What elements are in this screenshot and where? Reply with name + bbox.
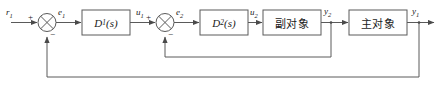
sum1-minus-sign: −	[50, 30, 55, 39]
primary-plant-box	[349, 10, 407, 35]
secondary-controller-box	[200, 10, 248, 35]
signal-label-u1: u1	[136, 8, 144, 19]
signal-label-e1: e1	[58, 8, 65, 19]
junction-dot-y2	[330, 21, 333, 24]
signal-label-e2: e2	[176, 8, 183, 19]
junction-dot-y1	[418, 21, 421, 24]
secondary-plant-box	[263, 10, 321, 35]
control-block-diagram: r1 e1 u1 e2 u2 y2 y1 + − + − D1(s) D2(s)…	[0, 0, 441, 96]
sum1-plus-sign: +	[28, 13, 33, 22]
signal-label-y2: y2	[324, 7, 331, 18]
signal-label-u2: u2	[250, 8, 258, 19]
diagram-canvas	[0, 0, 441, 96]
sum2-minus-sign: −	[168, 30, 173, 39]
sum2-plus-sign: +	[146, 13, 151, 22]
signal-label-y1: y1	[412, 7, 419, 18]
signal-label-r1: r1	[6, 8, 13, 19]
primary-controller-box	[82, 10, 130, 35]
